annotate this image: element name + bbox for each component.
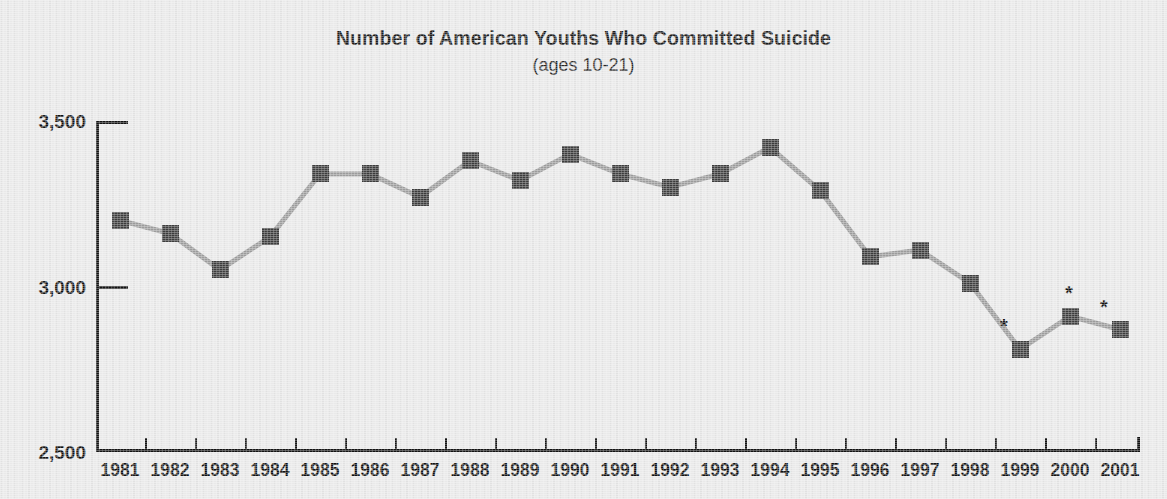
data-point-marker [1012, 341, 1029, 358]
data-point-marker [562, 146, 579, 163]
x-axis-label: 1981 [92, 462, 148, 480]
data-point-marker [312, 165, 329, 182]
data-point-marker [962, 275, 979, 292]
x-axis-label: 1999 [992, 462, 1048, 480]
data-point-marker [462, 152, 479, 169]
data-point-marker [162, 225, 179, 242]
data-point-marker [262, 228, 279, 245]
x-axis-label: 1988 [442, 462, 498, 480]
data-point-asterisk: * [1065, 283, 1073, 303]
data-point-marker [362, 165, 379, 182]
x-axis-label: 1982 [142, 462, 198, 480]
x-axis-label: 1991 [592, 462, 648, 480]
x-axis-label: 1994 [742, 462, 798, 480]
x-axis-label: 2000 [1042, 462, 1098, 480]
x-axis-label: 1993 [692, 462, 748, 480]
series-line-svg [0, 0, 1167, 499]
x-axis-label: 1986 [342, 462, 398, 480]
x-axis-label: 1997 [892, 462, 948, 480]
x-axis-labels: 1981198219831984198519861987198819891990… [96, 462, 1140, 492]
x-axis-label: 1983 [192, 462, 248, 480]
data-point-marker [662, 179, 679, 196]
data-point-marker [412, 189, 429, 206]
chart-container: Number of American Youths Who Committed … [0, 0, 1167, 499]
x-axis-label: 1992 [642, 462, 698, 480]
data-point-marker [112, 212, 129, 229]
data-point-marker [1062, 308, 1079, 325]
data-point-marker [762, 139, 779, 156]
x-axis-label: 1987 [392, 462, 448, 480]
x-axis-label: 1990 [542, 462, 598, 480]
x-axis-label: 2001 [1092, 462, 1148, 480]
x-axis-label: 1995 [792, 462, 848, 480]
data-point-asterisk: * [1000, 316, 1008, 336]
x-axis-label: 1996 [842, 462, 898, 480]
data-point-marker [812, 182, 829, 199]
data-point-marker [912, 242, 929, 259]
data-point-marker [612, 165, 629, 182]
x-axis-label: 1985 [292, 462, 348, 480]
data-point-marker [512, 172, 529, 189]
x-axis-label: 1984 [242, 462, 298, 480]
data-point-marker [1112, 321, 1129, 338]
data-point-marker [862, 248, 879, 265]
data-point-marker [712, 165, 729, 182]
x-axis-label: 1989 [492, 462, 548, 480]
x-axis-label: 1998 [942, 462, 998, 480]
data-point-marker [212, 261, 229, 278]
data-point-asterisk: * [1100, 297, 1108, 317]
